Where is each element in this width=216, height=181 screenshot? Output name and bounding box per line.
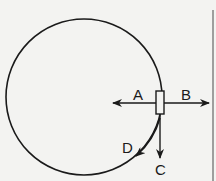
- label-a: A: [133, 87, 143, 102]
- circular-motion-diagram: A B C D: [0, 0, 216, 181]
- moving-object: [156, 91, 164, 114]
- label-d: D: [122, 140, 133, 155]
- arrow-d: [136, 118, 160, 156]
- label-b: B: [181, 87, 191, 102]
- label-c: C: [155, 162, 166, 177]
